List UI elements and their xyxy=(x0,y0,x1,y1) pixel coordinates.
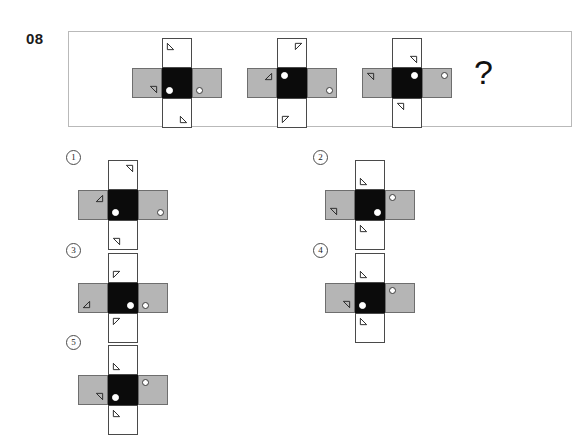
cross-cell-bottom xyxy=(355,220,385,250)
cross-cell-left xyxy=(78,190,108,220)
triangle-flag-icon xyxy=(329,207,338,216)
triangle-flag-icon xyxy=(166,42,175,51)
cross-cell-top xyxy=(392,38,422,68)
cross-cell-right xyxy=(422,68,452,98)
triangle-flag-icon xyxy=(409,55,418,64)
ring-dot-icon xyxy=(142,302,149,309)
cross-cell-center xyxy=(162,68,192,98)
ring-dot-icon xyxy=(389,194,396,201)
cross-cell-bottom xyxy=(277,98,307,128)
ring-dot-icon xyxy=(196,87,203,94)
cross-cell-left xyxy=(78,375,108,405)
cross-cell-bottom xyxy=(108,313,138,343)
triangle-flag-icon xyxy=(359,317,368,326)
option-1[interactable] xyxy=(78,160,168,250)
triangle-flag-icon xyxy=(112,362,121,371)
question-mark: ? xyxy=(474,55,493,89)
cross-cell-bottom xyxy=(108,220,138,250)
solid-dot-icon xyxy=(166,87,173,94)
option-2[interactable] xyxy=(325,160,415,250)
ring-dot-icon xyxy=(441,72,448,79)
triangle-flag-icon xyxy=(95,194,104,203)
cross-cell-right xyxy=(138,190,168,220)
cross-cell-top xyxy=(108,253,138,283)
cross-cell-left xyxy=(325,190,355,220)
cross-cell-right xyxy=(138,283,168,313)
cross-cell-right xyxy=(307,68,337,98)
cross-cell-right xyxy=(138,375,168,405)
triangle-flag-icon xyxy=(396,102,405,111)
solid-dot-icon xyxy=(112,209,119,216)
option-5[interactable] xyxy=(78,345,168,435)
cross-cell-center xyxy=(108,283,138,313)
solid-dot-icon xyxy=(359,302,366,309)
cross-cell-center xyxy=(355,283,385,313)
triangle-flag-icon xyxy=(359,270,368,279)
solid-dot-icon xyxy=(127,302,134,309)
cross-cell-bottom xyxy=(162,98,192,128)
cross-cell-bottom xyxy=(355,313,385,343)
cross-cell-center xyxy=(355,190,385,220)
triangle-flag-icon xyxy=(281,115,290,124)
triangle-flag-icon xyxy=(366,72,375,81)
stem-figure-3 xyxy=(362,38,452,128)
cross-cell-left xyxy=(132,68,162,98)
cross-cell-left xyxy=(325,283,355,313)
cross-cell-center xyxy=(392,68,422,98)
cross-cell-right xyxy=(192,68,222,98)
triangle-flag-icon xyxy=(95,392,104,401)
stem-figure-1 xyxy=(132,38,222,128)
cross-cell-right xyxy=(385,283,415,313)
ring-dot-icon xyxy=(157,209,164,216)
option-4[interactable] xyxy=(325,253,415,343)
cross-cell-top xyxy=(355,160,385,190)
triangle-flag-icon xyxy=(149,85,158,94)
cross-cell-top xyxy=(355,253,385,283)
ring-dot-icon xyxy=(142,379,149,386)
cross-cell-center xyxy=(277,68,307,98)
triangle-flag-icon xyxy=(359,177,368,186)
cross-cell-left xyxy=(78,283,108,313)
stem-figure-2 xyxy=(247,38,337,128)
option-3[interactable] xyxy=(78,253,168,343)
cross-cell-top xyxy=(162,38,192,68)
triangle-flag-icon xyxy=(82,300,91,309)
cross-cell-bottom xyxy=(108,405,138,435)
cross-cell-bottom xyxy=(392,98,422,128)
cross-cell-left xyxy=(362,68,392,98)
triangle-flag-icon xyxy=(359,224,368,233)
cross-cell-center xyxy=(108,190,138,220)
triangle-flag-icon xyxy=(112,409,121,418)
triangle-flag-icon xyxy=(112,270,121,279)
solid-dot-icon xyxy=(411,72,418,79)
triangle-flag-icon xyxy=(125,164,134,173)
cross-cell-top xyxy=(277,38,307,68)
solid-dot-icon xyxy=(112,394,119,401)
cross-cell-top xyxy=(108,345,138,375)
triangle-flag-icon xyxy=(342,300,351,309)
triangle-flag-icon xyxy=(112,317,121,326)
cross-cell-top xyxy=(108,160,138,190)
solid-dot-icon xyxy=(374,209,381,216)
cross-cell-left xyxy=(247,68,277,98)
cross-cell-center xyxy=(108,375,138,405)
triangle-flag-icon xyxy=(112,237,121,246)
ring-dot-icon xyxy=(326,87,333,94)
triangle-flag-icon xyxy=(264,72,273,81)
triangle-flag-icon xyxy=(179,115,188,124)
cross-cell-right xyxy=(385,190,415,220)
ring-dot-icon xyxy=(389,287,396,294)
question-number: 08 xyxy=(26,30,44,47)
solid-dot-icon xyxy=(281,72,288,79)
triangle-flag-icon xyxy=(294,42,303,51)
